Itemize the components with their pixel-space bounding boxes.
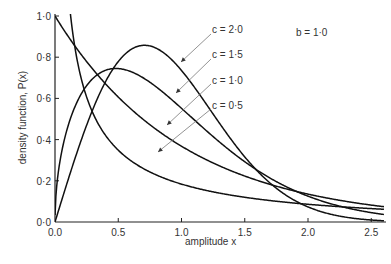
y-tick-label: 0·4 [37, 135, 52, 146]
legend-arrow [176, 59, 211, 93]
legend-label-c05: c = 0·5 [212, 100, 243, 111]
legend-arrow [181, 34, 211, 62]
weibull-density-chart: 0.00.51.01.52.02.50·00·20·40·60·81·0 [0, 0, 391, 264]
legend-arrow [158, 109, 211, 152]
y-tick-label: 0·8 [37, 52, 52, 63]
y-tick-label: 1·0 [37, 11, 52, 22]
x-tick-label: 0.5 [111, 227, 125, 238]
x-tick-label: 2.0 [301, 227, 315, 238]
x-tick-label: 1.5 [238, 227, 252, 238]
y-axis-label: density function, P(x) [17, 58, 28, 178]
x-tick-label: 0.0 [48, 227, 62, 238]
x-tick-label: 2.5 [364, 227, 378, 238]
y-tick-label: 0·6 [37, 93, 52, 104]
legend-arrow [167, 84, 211, 125]
legend-label-c1: c = 1·0 [212, 75, 243, 86]
series-curve-2 [55, 16, 384, 207]
x-axis-label: amplitude x [185, 236, 236, 247]
legend-label-c15: c = 1·5 [212, 49, 243, 60]
y-tick-label: 0·2 [37, 176, 52, 187]
legend-label-c2: c = 2·0 [212, 24, 243, 35]
y-tick-label: 0·0 [37, 217, 52, 228]
parameter-annotation: b = 1·0 [296, 27, 327, 38]
